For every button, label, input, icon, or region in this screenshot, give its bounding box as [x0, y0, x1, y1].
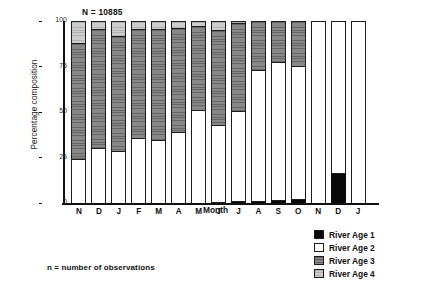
bar-segment-age3	[191, 26, 206, 110]
y-tick-label: 75	[59, 62, 67, 69]
bar-segment-age2	[211, 125, 226, 202]
bar-segment-age4	[171, 21, 186, 28]
bar-segment-age2	[331, 21, 346, 173]
bar-segment-age3	[271, 21, 286, 62]
y-tick-mark	[39, 157, 42, 158]
legend-label: River Age 4	[329, 269, 375, 279]
legend-swatch-age3	[314, 256, 324, 265]
bar-segment-age3	[71, 43, 86, 159]
y-tick-mark	[39, 66, 42, 67]
legend-item-age2[interactable]: River Age 2	[314, 241, 375, 254]
bar-segment-age4	[131, 21, 146, 29]
bar-7[interactable]	[191, 21, 206, 203]
legend-label: River Age 1	[329, 230, 375, 240]
legend-swatch-age1	[314, 230, 324, 239]
bar-segment-age2	[291, 66, 306, 199]
bar-segment-age2	[171, 132, 186, 203]
bar-4[interactable]	[131, 21, 146, 203]
bar-segment-age2	[271, 62, 286, 200]
sample-size-annotation: N = 10885	[82, 7, 123, 17]
bar-segment-age3	[231, 23, 246, 111]
bar-15[interactable]	[351, 21, 366, 203]
bar-5[interactable]	[151, 21, 166, 203]
bar-segment-age4	[111, 21, 126, 36]
y-tick-label: 0	[63, 198, 67, 205]
bar-segment-age2	[111, 151, 126, 203]
bar-segment-age2	[191, 110, 206, 203]
bar-segment-age3	[291, 21, 306, 66]
bar-9[interactable]	[231, 21, 246, 203]
legend-item-age1[interactable]: River Age 1	[314, 228, 375, 241]
bar-segment-age2	[251, 70, 266, 201]
plot-area: 0255075100 NDJFMAMJJASONDJ	[63, 21, 368, 203]
bar-12[interactable]	[291, 21, 306, 203]
bar-3[interactable]	[111, 21, 126, 203]
bar-segment-age1	[211, 202, 226, 203]
y-tick-mark	[39, 21, 42, 22]
y-tick-label: 25	[59, 153, 67, 160]
bar-segment-age2	[91, 148, 106, 203]
x-axis-label: Month	[63, 205, 368, 215]
bar-segment-age3	[131, 29, 146, 138]
y-tick-75: 75	[37, 62, 67, 72]
bar-2[interactable]	[91, 21, 106, 203]
legend-label: River Age 2	[329, 243, 375, 253]
bar-segment-age2	[71, 159, 86, 203]
y-tick-50: 50	[37, 107, 67, 117]
bar-segment-age4	[91, 21, 106, 29]
bar-segment-age3	[151, 29, 166, 140]
bar-segment-age2	[151, 140, 166, 203]
legend: River Age 1River Age 2River Age 3River A…	[314, 228, 375, 280]
y-tick-label: 50	[59, 107, 67, 114]
bar-14[interactable]	[331, 21, 346, 203]
bar-segment-age1	[271, 200, 286, 203]
bar-segment-age4	[71, 21, 86, 43]
y-tick-100: 100	[37, 16, 67, 26]
bar-segment-age4	[151, 21, 166, 29]
bar-6[interactable]	[171, 21, 186, 203]
bar-segment-age1	[251, 201, 266, 203]
bar-1[interactable]	[71, 21, 86, 203]
y-tick-25: 25	[37, 153, 67, 163]
y-tick-label: 100	[55, 16, 67, 23]
bar-segment-age3	[171, 28, 186, 132]
bar-segment-age1	[291, 199, 306, 203]
footnote-text: n = number of observations	[47, 263, 155, 272]
legend-swatch-age4	[314, 269, 324, 278]
bar-segment-age2	[351, 21, 366, 203]
figure-container: Percentage composition N = 10885 0255075…	[0, 0, 443, 295]
bar-segment-age1	[231, 201, 246, 203]
legend-label: River Age 3	[329, 256, 375, 266]
bar-segment-age4	[211, 21, 226, 30]
bar-segment-age2	[311, 21, 326, 203]
bar-segment-age2	[231, 111, 246, 201]
y-tick-mark	[39, 203, 42, 204]
legend-item-age3[interactable]: River Age 3	[314, 254, 375, 267]
bar-segment-age3	[91, 29, 106, 148]
legend-swatch-age2	[314, 243, 324, 252]
y-tick-mark	[39, 112, 42, 113]
legend-item-age4[interactable]: River Age 4	[314, 267, 375, 280]
bar-10[interactable]	[251, 21, 266, 203]
bar-11[interactable]	[271, 21, 286, 203]
bar-13[interactable]	[311, 21, 326, 203]
bar-8[interactable]	[211, 21, 226, 203]
bar-segment-age3	[111, 36, 126, 152]
bar-segment-age3	[251, 21, 266, 70]
bar-segment-age3	[211, 30, 226, 125]
bar-segment-age2	[131, 138, 146, 203]
bar-segment-age1	[331, 173, 346, 203]
